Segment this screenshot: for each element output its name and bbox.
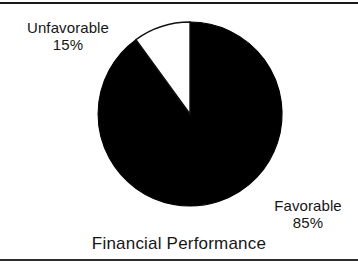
pie-label-unfavorable-name: Unfavorable xyxy=(27,19,109,36)
pie-label-favorable-name: Favorable xyxy=(274,197,342,214)
bottom-divider-rule xyxy=(0,259,358,261)
pie-chart-figure: Unfavorable 15% Favorable 85% Financial … xyxy=(0,0,358,269)
pie-label-favorable-percent: 85% xyxy=(266,214,350,231)
pie-label-unfavorable-percent: 15% xyxy=(18,36,118,53)
pie-label-unfavorable: Unfavorable 15% xyxy=(18,19,118,53)
chart-title: Financial Performance xyxy=(0,234,358,254)
pie-label-favorable: Favorable 85% xyxy=(266,197,350,231)
